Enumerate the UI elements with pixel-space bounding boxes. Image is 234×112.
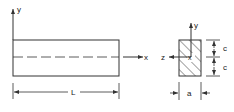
- y-axis-label: y: [17, 5, 21, 14]
- c-label-top: c: [223, 44, 227, 53]
- origin-label: x: [188, 54, 192, 61]
- beam-rectangle: [13, 40, 119, 76]
- c-label-bottom: c: [223, 63, 227, 72]
- beam-side-view: y x L: [13, 5, 148, 99]
- x-axis-label: x: [144, 53, 148, 62]
- length-label: L: [71, 88, 76, 97]
- cross-y-axis-label: y: [194, 21, 198, 30]
- cross-section-view: y z x c c a: [161, 21, 227, 100]
- width-label: a: [187, 89, 192, 98]
- z-axis-label: z: [161, 53, 165, 62]
- beam-diagram: y x L y z x c c a: [0, 0, 234, 112]
